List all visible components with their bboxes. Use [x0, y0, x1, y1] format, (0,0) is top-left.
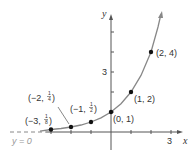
label-point-neg2-den: 4	[48, 96, 51, 102]
point-2	[149, 50, 153, 54]
label-point-0: (0, 1)	[113, 114, 134, 124]
label-point-neg2: (−2,	[28, 93, 44, 103]
label-point-neg2-close: )	[52, 93, 55, 103]
y-axis-arrow-icon	[109, 14, 113, 20]
pointer-line	[58, 107, 69, 124]
point-neg3	[49, 127, 53, 131]
label-point-neg3-close: )	[49, 116, 52, 126]
x-axis-label: x	[182, 135, 188, 146]
label-point-neg3: (−3,	[25, 116, 41, 126]
curve-arrow-icon	[158, 11, 163, 18]
point-neg1	[89, 120, 93, 124]
label-point-2: (2, 4)	[156, 48, 177, 58]
label-point-neg3-den: 8	[45, 119, 48, 125]
label-point-neg1: (−1,	[70, 104, 86, 114]
exponential-curve	[40, 14, 161, 131]
x-axis-arrow-icon	[177, 130, 183, 134]
point-1	[129, 90, 133, 94]
y-tick-label-3: 3	[102, 67, 107, 77]
exponential-graph: y x 3 3 y = 0 (−3, 1 8 ) (−2, 1 4 ) (−1,…	[0, 0, 195, 158]
label-point-1: (1, 2)	[134, 94, 155, 104]
label-point-neg1-close: )	[94, 104, 97, 114]
x-tick-label-3: 3	[167, 136, 172, 146]
asymptote-label: y = 0	[11, 136, 32, 146]
y-axis-label: y	[101, 8, 107, 19]
point-neg2	[69, 125, 73, 129]
label-point-neg1-den: 2	[90, 107, 93, 113]
